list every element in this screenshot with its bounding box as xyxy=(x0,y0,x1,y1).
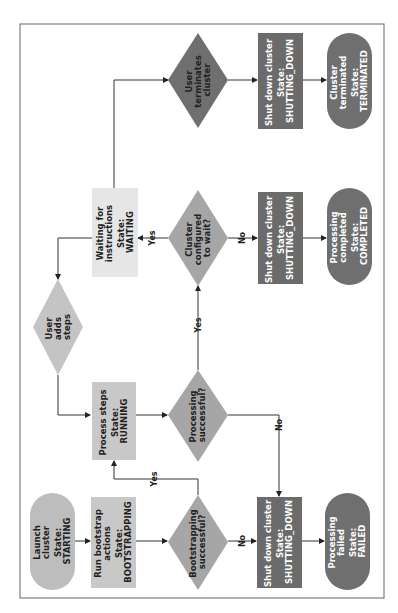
decision-cluster-configured-to-wait: Cluster configured to wait? xyxy=(168,190,228,286)
edge-label-process-no: No xyxy=(275,418,284,431)
decision-processing-successful: Processing successful? xyxy=(168,370,228,462)
connectors xyxy=(58,80,326,541)
svg-text:User adds steps: User adds steps xyxy=(44,314,72,340)
decision-user-adds-steps: User adds steps xyxy=(33,279,83,375)
svg-text:Bootstrapping successful: Bootstrapping successful? xyxy=(188,506,207,577)
node-process-steps: Process steps State: RUNNING xyxy=(92,382,136,460)
node-processing-failed: Processing failed State: FAILED xyxy=(325,493,370,590)
node-processing-completed: Processing completed State: COMPLETED xyxy=(327,188,372,285)
node-launch-cluster: Launch cluster State: STARTING xyxy=(30,493,75,590)
node-cluster-terminated: Cluster terminated State: TERMINATED xyxy=(327,33,372,129)
edge-label-bootstrap-yes: Yes xyxy=(150,471,159,487)
svg-text:Processing successful?: Processing successful? xyxy=(188,387,207,442)
edge-label-bootstrap-no: No xyxy=(238,534,247,547)
node-run-bootstrap: Run bootstrap actions State: BOOTSTRAPPI… xyxy=(91,497,136,588)
edge-label-wait-yes: Yes xyxy=(148,230,157,246)
edge-label-wait-no: No xyxy=(238,231,247,244)
decision-user-terminates-cluster: User terminates cluster xyxy=(168,33,228,128)
flowchart-canvas: Yes No Yes No Yes No Launch cluster Stat… xyxy=(0,0,398,613)
node-waiting-for-instructions: Waiting for instructions State: WAITING xyxy=(92,188,138,277)
node-shutdown-completed-path: Shut down cluster State: SHUTTING_DOWN xyxy=(258,192,303,284)
node-shutdown-failed-path: Shut down cluster State: SHUTTING_DOWN xyxy=(257,497,302,588)
node-shutdown-terminated-path: Shut down cluster State: SHUTTING_DOWN xyxy=(258,33,303,129)
edge-label-process-yes: Yes xyxy=(194,317,203,333)
decision-bootstrapping-successful: Bootstrapping successful? xyxy=(168,495,228,590)
